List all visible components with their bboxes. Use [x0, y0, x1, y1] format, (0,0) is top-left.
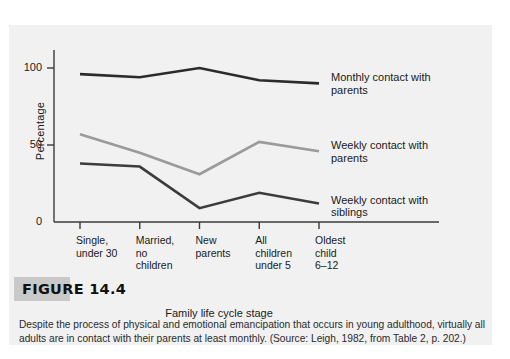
- figure-caption: Despite the process of physical and emot…: [19, 318, 489, 345]
- y-axis-title: Percentage: [34, 86, 46, 176]
- y-axis-tick-label: 0: [8, 216, 42, 227]
- y-axis-tick-label: 100: [8, 62, 42, 73]
- series-label-2: Weekly contact withparents: [331, 139, 471, 164]
- x-axis-tick-label-line: child: [315, 247, 393, 260]
- x-axis-tick-label-line: children: [136, 259, 214, 272]
- series-label-3: Weekly contact withsiblings: [331, 194, 471, 219]
- series-label-line: Weekly contact with: [331, 194, 471, 207]
- series-label-1: Monthly contact withparents: [331, 71, 471, 96]
- figure-number-title: FIGURE 14.4: [22, 281, 126, 297]
- series-label-line: Monthly contact with: [331, 71, 471, 84]
- series-label-line: parents: [331, 152, 471, 165]
- x-axis-tick-label: Oldestchild6–12: [315, 234, 393, 272]
- series-label-line: Weekly contact with: [331, 139, 471, 152]
- x-axis-tick-label-line: Oldest: [315, 234, 393, 247]
- series-label-line: siblings: [331, 206, 471, 219]
- figure-page: 0 50 100 Percentage Single,under 30Marri…: [0, 0, 510, 359]
- series-label-line: parents: [331, 84, 471, 97]
- line-chart: 0 50 100 Percentage Single,under 30Marri…: [9, 25, 492, 270]
- x-axis-tick-label-line: 6–12: [315, 259, 393, 272]
